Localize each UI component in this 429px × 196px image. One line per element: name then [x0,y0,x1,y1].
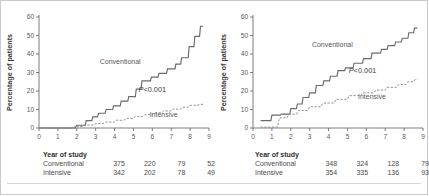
pvalue-annotation: P<0.001 [349,66,377,75]
cell: 78 [156,169,186,178]
x-tick-label: 9 [207,133,211,140]
cell: 79 [156,160,186,169]
x-tick-label: 1 [56,133,60,140]
cell: 49 [185,169,215,178]
x-tick-label: 2 [75,133,79,140]
series-label-intensive: Intensive [150,111,178,118]
cell: 220 [125,160,156,169]
x-tick-label: 5 [132,133,136,140]
cell: 324 [337,160,368,169]
y-tick-label: 60 [27,13,35,20]
y-tick-label: 40 [241,50,249,57]
chart-panel-right: 01020304050600123456789Percentage of pat… [215,1,429,196]
x-tick-label: 4 [113,133,117,140]
y-tick-label: 0 [30,124,34,131]
y-tick-label: 10 [27,106,35,113]
y-tick-label: 0 [244,124,248,131]
table-header-row: Year of study [255,151,429,160]
table-row: Conventional 348 324 128 79 [255,160,429,169]
series-label-conventional: Conventional [312,41,353,48]
bottom-divider [7,183,421,184]
cell: 93 [399,169,429,178]
y-tick-label: 30 [241,69,249,76]
x-tick-label: 3 [308,133,312,140]
cell: 375 [94,160,125,169]
series-label-intensive: Intensive [358,93,386,100]
cell: 335 [337,169,368,178]
y-tick-label: 60 [241,13,249,20]
x-tick-label: 8 [402,133,406,140]
curve-conventional [39,26,203,128]
chart-panel-left: 01020304050600123456789Percentage of pat… [1,1,215,196]
x-tick-label: 4 [327,133,331,140]
pvalue-rest: <0.001 [354,66,377,75]
cell: 136 [368,169,399,178]
x-tick-label: 5 [346,133,350,140]
x-tick-label: 0 [251,133,255,140]
pvalue-annotation: P<0.001 [138,85,166,94]
y-tick-label: 50 [241,32,249,39]
cell: 202 [125,169,156,178]
row-label-intensive: Intensive [255,169,306,178]
y-tick-label: 20 [27,87,35,94]
x-tick-label: 6 [365,133,369,140]
table-right: Year of study Conventional 348 324 128 7… [255,151,429,177]
curve-intensive [39,104,203,128]
y-axis-title: Percentage of patients [5,34,14,111]
table-row: Intensive 342 202 78 49 [43,169,215,178]
table-header-row: Year of study [43,151,215,160]
y-tick-label: 30 [27,69,35,76]
chart-svg-right: 01020304050600123456789Percentage of pat… [215,1,429,149]
x-tick-label: 6 [151,133,155,140]
chart-svg-left: 01020304050600123456789Percentage of pat… [1,1,215,149]
risk-table-left: Year of study Conventional 375 220 79 52… [43,151,215,177]
x-tick-label: 3 [94,133,98,140]
table-header-label: Year of study [255,151,306,160]
y-tick-label: 40 [27,50,35,57]
series-label-conventional: Conventional [100,58,141,65]
table-header-label: Year of study [43,151,94,160]
table-left: Year of study Conventional 375 220 79 52… [43,151,215,177]
cell: 128 [368,160,399,169]
x-tick-label: 1 [270,133,274,140]
table-row: Intensive 354 335 136 93 [255,169,429,178]
x-tick-label: 2 [289,133,293,140]
cell: 348 [306,160,337,169]
risk-table-right: Year of study Conventional 348 324 128 7… [255,151,429,177]
x-tick-label: 7 [169,133,173,140]
y-tick-label: 10 [241,106,249,113]
x-tick-label: 7 [383,133,387,140]
y-tick-label: 20 [241,87,249,94]
row-label-conventional: Conventional [255,160,306,169]
cell: 79 [399,160,429,169]
y-axis-title: Percentage of patients [219,34,228,111]
cell: 52 [185,160,215,169]
x-tick-label: 9 [421,133,425,140]
table-row: Conventional 375 220 79 52 [43,160,215,169]
x-tick-label: 8 [188,133,192,140]
curve-intensive [261,79,418,127]
row-label-conventional: Conventional [43,160,94,169]
cell: 354 [306,169,337,178]
x-tick-label: 0 [37,133,41,140]
cell: 342 [94,169,125,178]
pvalue-rest: <0.001 [143,85,166,94]
y-tick-label: 50 [27,32,35,39]
row-label-intensive: Intensive [43,169,94,178]
